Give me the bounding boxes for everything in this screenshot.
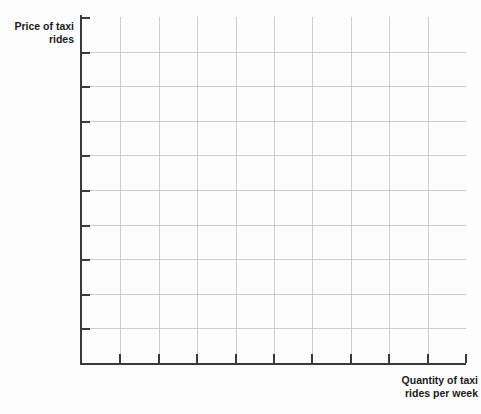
plot-area [82, 17, 466, 363]
x-axis-label-line2: rides per week [378, 387, 478, 400]
gridline-vertical [389, 17, 390, 363]
y-axis-tick [82, 328, 90, 330]
x-axis-line [80, 363, 466, 365]
y-axis-tick [82, 225, 90, 227]
x-axis-tick [235, 354, 237, 363]
gridline-vertical [274, 17, 275, 363]
y-axis-label-line2: rides [6, 33, 74, 46]
x-axis-tick [196, 354, 198, 363]
y-axis-tick [82, 52, 90, 54]
y-axis-tick [82, 121, 90, 123]
gridline-vertical [120, 17, 121, 363]
x-axis-label: Quantity of taxi rides per week [378, 374, 478, 400]
y-axis-tick [82, 259, 90, 261]
gridlines [82, 17, 466, 363]
x-axis-tick [119, 354, 121, 363]
x-axis-tick [273, 354, 275, 363]
gridline-vertical [197, 17, 198, 363]
x-axis-tick [427, 354, 429, 363]
x-axis-tick [350, 354, 352, 363]
x-axis-tick [388, 354, 390, 363]
x-axis-tick [158, 354, 160, 363]
gridline-vertical [159, 17, 160, 363]
y-axis-label: Price of taxi rides [6, 20, 74, 46]
gridline-vertical [428, 17, 429, 363]
x-axis-label-line1: Quantity of taxi [402, 374, 478, 386]
gridline-vertical [312, 17, 313, 363]
x-axis-tick [311, 354, 313, 363]
y-axis-tick [82, 17, 90, 19]
gridline-vertical [351, 17, 352, 363]
y-axis-tick [82, 190, 90, 192]
top-crop-text-artifact [100, 0, 460, 7]
gridline-vertical [236, 17, 237, 363]
y-axis-tick [82, 155, 90, 157]
y-axis-label-line1: Price of taxi [14, 20, 74, 32]
y-axis-tick [82, 86, 90, 88]
y-axis-tick [82, 294, 90, 296]
x-axis-tick [465, 354, 467, 363]
graph-worksheet-page: Price of taxi rides Quantity of taxi rid… [0, 0, 481, 414]
